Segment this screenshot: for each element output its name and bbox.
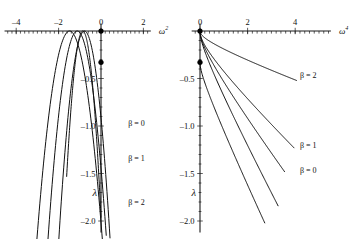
x-axis-tick-label: –4 bbox=[11, 17, 21, 27]
y-axis-tick-label: –2.0 bbox=[80, 216, 96, 226]
series-label-β2: β = 2 bbox=[128, 198, 145, 207]
series-label-β2: β = 2 bbox=[300, 71, 317, 80]
x-axis-tick-label: 2 bbox=[245, 17, 249, 27]
y-axis-tick-label: –0.5 bbox=[179, 74, 195, 84]
origin-marker bbox=[98, 28, 103, 33]
y-axis-tick-label: –1.5 bbox=[80, 169, 96, 179]
y-axis-tick-label: –1.0 bbox=[80, 121, 96, 131]
lower-branch-marker bbox=[197, 60, 202, 65]
series-label-β0: β = 0 bbox=[128, 119, 145, 128]
chart-panel-right: 024ω4–0.5–1.0–1.5–2.0λβ = 2β = 1β = 0 bbox=[177, 0, 354, 239]
y-axis-name: λ bbox=[91, 187, 97, 198]
chart-left-svg: –4–202ω2–0.5–1.0–1.5–2.0λβ = 0β = 1β = 2 bbox=[0, 0, 177, 239]
lower-branch-marker bbox=[98, 60, 103, 65]
series-label-β1: β = 1 bbox=[128, 154, 145, 163]
series-label-β1: β = 1 bbox=[300, 141, 317, 150]
x-axis-name: ω4 bbox=[339, 25, 348, 35]
x-axis-name: ω2 bbox=[159, 25, 168, 35]
y-axis-name: λ bbox=[190, 187, 196, 198]
curve-lower-branch bbox=[200, 62, 265, 223]
y-axis-tick-label: –1.0 bbox=[179, 121, 195, 131]
curve-β0 bbox=[200, 31, 284, 172]
series-label-β0: β = 0 bbox=[300, 166, 317, 175]
y-axis-tick-label: –1.5 bbox=[179, 169, 195, 179]
curve-β0 bbox=[37, 31, 103, 239]
x-axis-tick-label: –2 bbox=[53, 17, 63, 27]
curve-β2 bbox=[200, 31, 296, 80]
origin-marker bbox=[197, 28, 202, 33]
x-axis-tick-label: 4 bbox=[293, 17, 298, 27]
figure-container: –4–202ω2–0.5–1.0–1.5–2.0λβ = 0β = 1β = 2… bbox=[0, 0, 354, 239]
x-axis-tick-label: 2 bbox=[141, 17, 145, 27]
chart-right-svg: 024ω4–0.5–1.0–1.5–2.0λβ = 2β = 1β = 0 bbox=[177, 0, 354, 239]
chart-panel-left: –4–202ω2–0.5–1.0–1.5–2.0λβ = 0β = 1β = 2 bbox=[0, 0, 177, 239]
curve-β1 bbox=[200, 31, 294, 148]
y-axis-tick-label: –2.0 bbox=[179, 216, 195, 226]
y-axis-tick-label: –0.5 bbox=[80, 74, 96, 84]
